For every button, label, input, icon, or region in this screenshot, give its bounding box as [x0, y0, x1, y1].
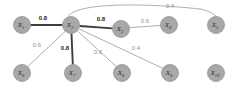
node-x5[interactable]: X5 — [208, 17, 225, 34]
nodes-layer: X1X2X3X4X5X6X7X8X9X10 — [14, 17, 225, 82]
edge-x2-x7 — [72, 34, 73, 65]
edge-weight-x1-x2: 0.8 — [39, 15, 48, 21]
edge-x2-x6 — [28, 32, 65, 67]
edge-x2-x3 — [80, 26, 113, 28]
edge-weight-x2-x6: 0.6 — [33, 42, 42, 48]
node-x7[interactable]: X7 — [65, 65, 82, 82]
edge-weight-x2-x9: 0.4 — [132, 45, 141, 51]
edge-weight-x2-x3: 0.8 — [97, 16, 106, 22]
node-x3[interactable]: X3 — [113, 21, 130, 38]
graph-canvas: X1X2X3X4X5X6X7X8X9X10 0.80.80.60.40.60.8… — [0, 0, 238, 91]
edge-weight-x2-x7: 0.8 — [61, 45, 70, 51]
node-x1[interactable]: X1 — [14, 17, 31, 34]
node-x9[interactable]: X9 — [162, 65, 179, 82]
node-x10[interactable]: X10 — [208, 65, 225, 82]
edge-weight-x3-x4: 0.6 — [141, 18, 150, 24]
graph-figure: X1X2X3X4X5X6X7X8X9X10 0.80.80.60.40.60.8… — [0, 0, 238, 91]
node-x2[interactable]: X2 — [63, 17, 80, 34]
node-x8[interactable]: X8 — [114, 65, 131, 82]
edge-x2-x5 — [68, 5, 217, 17]
node-subscript-x10: 10 — [215, 72, 220, 77]
edge-weight-x2-x5: 0.4 — [166, 3, 175, 9]
edge-x3-x4 — [129, 25, 160, 27]
node-subscript-x1: 1 — [22, 24, 24, 29]
edge-labels-layer: 0.80.80.60.40.60.80.60.4 — [33, 3, 175, 55]
node-x4[interactable]: X4 — [161, 17, 178, 34]
node-x6[interactable]: X6 — [14, 65, 31, 82]
edge-weight-x2-x8: 0.6 — [94, 49, 103, 55]
